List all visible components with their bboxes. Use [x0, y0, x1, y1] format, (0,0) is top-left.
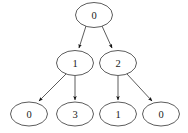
tree-diagram: 0120310	[0, 0, 188, 133]
node-label: 0	[26, 109, 31, 120]
tree-node[interactable]: 1	[100, 102, 137, 126]
tree-node[interactable]: 1	[57, 51, 94, 76]
tree-edge	[102, 26, 112, 48]
tree-node[interactable]: 2	[100, 51, 137, 76]
tree-node[interactable]: 3	[57, 102, 94, 126]
edge-line	[39, 74, 66, 101]
tree-node[interactable]: 0	[143, 102, 180, 126]
nodes-layer: 0120310	[11, 3, 180, 127]
tree-node[interactable]: 0	[11, 102, 48, 126]
edge-line	[127, 74, 152, 101]
tree-diagram-canvas: 0120310	[0, 0, 188, 133]
edge-line	[79, 26, 86, 48]
node-label: 1	[115, 109, 120, 120]
node-label: 3	[72, 109, 77, 120]
tree-edge	[79, 26, 86, 48]
tree-edge	[39, 74, 66, 101]
node-label: 0	[158, 109, 163, 120]
node-label: 1	[72, 58, 77, 69]
tree-node[interactable]: 0	[76, 3, 113, 28]
edge-line	[102, 26, 112, 48]
tree-edge	[127, 74, 152, 101]
node-label: 2	[115, 58, 120, 69]
node-label: 0	[91, 10, 96, 21]
